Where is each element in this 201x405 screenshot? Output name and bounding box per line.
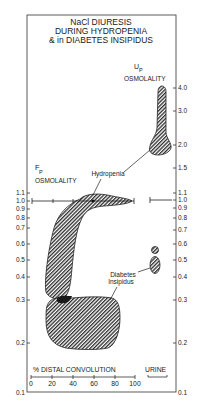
right-tick-label: 0.9 xyxy=(178,204,187,211)
up-label-den: P xyxy=(139,67,143,73)
di-distal-pointer xyxy=(110,287,117,300)
di-label-line2: Insipidus xyxy=(108,278,134,286)
di-urine-pointer xyxy=(138,268,150,272)
x-tick-label: 60 xyxy=(90,380,98,387)
diabetes-insipidus-urine-large xyxy=(150,257,160,274)
x-tick-label: 20 xyxy=(48,380,56,387)
figure: NaCl DIURESIS DURING HYDROPENIA & in DIA… xyxy=(0,0,201,405)
x-tick-label: 80 xyxy=(111,380,119,387)
x-axis-urine-label: URINE xyxy=(145,366,167,373)
x-axis-label: % DISTAL CONVOLUTION xyxy=(33,366,116,373)
right-tick-label: 1.5 xyxy=(178,164,187,171)
left-tick-label: 0.1 xyxy=(16,389,25,396)
fp-label-word: OSMOLALITY xyxy=(35,177,77,184)
right-y-axis xyxy=(173,88,176,343)
right-tick-label: 0.8 xyxy=(178,214,187,221)
x-axis xyxy=(31,375,167,379)
diabetes-insipidus-urine-small xyxy=(152,247,159,254)
reference-point xyxy=(91,199,94,202)
hydropenia-urine-pointer xyxy=(124,150,150,172)
left-tick-label: 0.4 xyxy=(16,273,25,280)
right-tick-label: 0.6 xyxy=(178,240,187,247)
fp-label-den: P xyxy=(39,169,43,175)
diabetes-insipidus-distal-region xyxy=(46,297,120,350)
right-tick-label: 1.0 xyxy=(178,196,187,203)
right-tick-label: 1.1 xyxy=(178,189,187,196)
left-tick-label: 0.3 xyxy=(16,296,25,303)
right-tick-label: 3.0 xyxy=(178,107,187,114)
title-line-3: & in DIABETES INSIPIDUS xyxy=(49,35,153,45)
right-tick-label: 4.0 xyxy=(178,84,187,91)
x-tick-label: 0 xyxy=(29,380,33,387)
left-tick-label: 1.1 xyxy=(16,189,25,196)
left-tick-label: 0.2 xyxy=(16,339,25,346)
right-tick-label: 0.7 xyxy=(178,226,187,233)
x-tick-label: 100 xyxy=(129,380,141,387)
left-tick-label: 0.5 xyxy=(16,256,25,263)
right-tick-label: 0.2 xyxy=(178,339,187,346)
x-tick-label: 40 xyxy=(69,380,77,387)
right-tick-label: 2.0 xyxy=(178,141,187,148)
right-tick-label: 0.4 xyxy=(178,273,187,280)
left-y-axis xyxy=(27,193,30,343)
left-tick-label: 0.7 xyxy=(16,224,25,231)
left-tick-label: 0.9 xyxy=(16,205,25,212)
right-tick-label: 0.3 xyxy=(178,296,187,303)
up-label-word: OSMOLALITY xyxy=(124,75,166,82)
right-tick-label: 0.5 xyxy=(178,256,187,263)
hydropenia-pointer xyxy=(93,179,101,195)
hydropenia-urine-region xyxy=(149,86,171,155)
di-label-line1: Diabetes xyxy=(110,271,136,278)
hydropenia-label: Hydropenia xyxy=(91,170,125,178)
left-tick-label: 0.8 xyxy=(16,214,25,221)
left-tick-label: 1.0 xyxy=(16,197,25,204)
left-tick-label: 0.6 xyxy=(16,240,25,247)
right-tick-label: 0.1 xyxy=(178,389,187,396)
